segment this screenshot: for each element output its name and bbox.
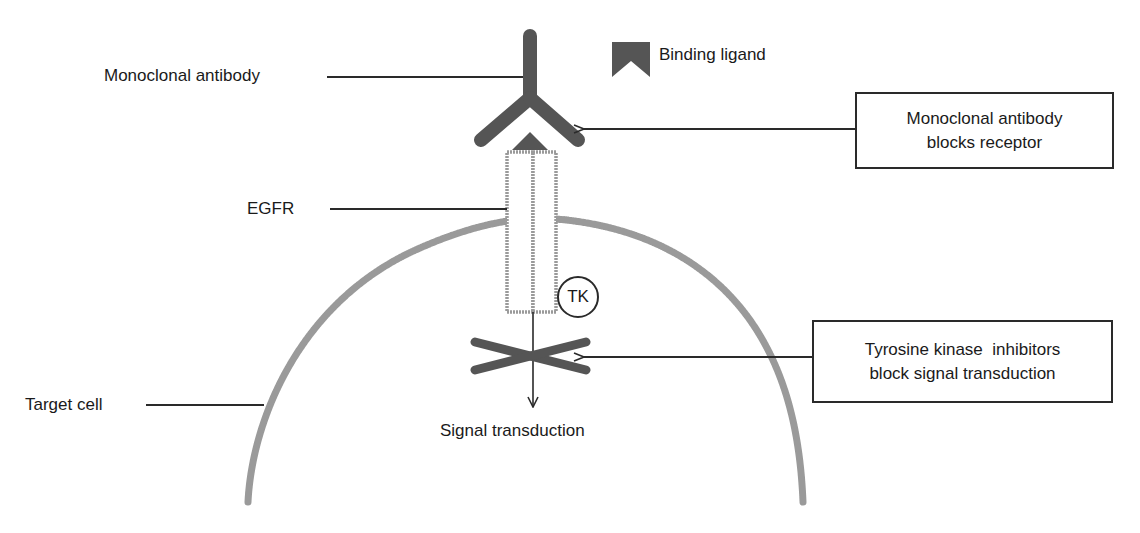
antibody-shape [481,36,578,140]
antibody-blocks-callout: Monoclonal antibody blocks receptor [855,92,1114,169]
egfr-label: EGFR [247,199,294,219]
egfr-diagram: Monoclonal antibody Binding ligand EGFR … [0,0,1140,533]
binding-ligand-chevron-icon [612,42,650,77]
binding-ligand-shape [512,132,548,150]
tki-blocks-line2: block signal transduction [869,362,1055,386]
signal-transduction-label: Signal transduction [440,421,585,441]
tki-block-x [475,342,586,370]
monoclonal-antibody-label: Monoclonal antibody [104,66,260,86]
egfr-receptor [507,152,556,312]
binding-ligand-label: Binding ligand [659,45,766,65]
tki-blocks-callout: Tyrosine kinase inhibitors block signal … [812,320,1113,403]
tk-label: TK [558,287,598,307]
target-cell-label: Target cell [25,395,102,415]
antibody-blocks-line1: Monoclonal antibody [907,107,1063,131]
tki-blocks-line1: Tyrosine kinase inhibitors [865,338,1061,362]
antibody-blocks-line2: blocks receptor [927,131,1042,155]
